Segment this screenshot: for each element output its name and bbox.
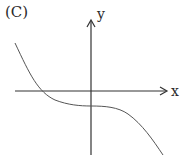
function-graph: [0, 0, 183, 162]
y-axis-label: y: [97, 7, 105, 21]
panel-label: (C): [5, 5, 28, 20]
x-axis-label: x: [171, 84, 179, 98]
function-curve: [15, 43, 163, 155]
